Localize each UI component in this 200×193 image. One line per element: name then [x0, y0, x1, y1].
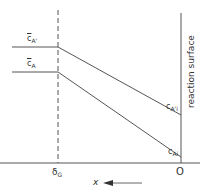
label-subscript: A'i — [170, 105, 177, 112]
label-subscript: Ai — [172, 150, 178, 157]
label-subscript: A — [31, 62, 35, 69]
label-interface-upper: cA'i — [166, 103, 178, 112]
diagram-canvas — [0, 0, 200, 193]
label-x-axis: x — [93, 178, 98, 187]
label-bulk-lower: cA — [27, 60, 36, 69]
upper-profile-line — [58, 47, 181, 115]
label-reaction-surface: reaction surface — [186, 35, 196, 108]
label-origin: O — [176, 167, 184, 177]
label-subscript: A' — [31, 37, 37, 44]
label-subscript: G — [58, 171, 63, 178]
lower-profile-line — [58, 72, 181, 157]
label-film-thickness: δG — [52, 168, 62, 178]
label-bulk-upper: cA' — [27, 35, 37, 44]
label-interface-lower: cAi — [168, 148, 178, 157]
arrow-left-icon — [103, 180, 113, 186]
